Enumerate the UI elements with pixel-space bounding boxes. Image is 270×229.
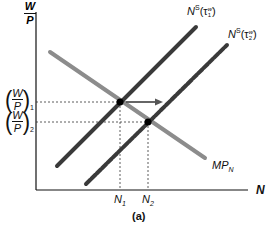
y-label-denominator: P xyxy=(26,14,33,26)
y-label-numerator: W xyxy=(25,0,35,12)
n2-sub: 2 xyxy=(150,200,154,207)
mpn-label: MPN xyxy=(212,159,234,173)
y-tick-wp2: ( WP ) 2 xyxy=(5,110,34,133)
n2-base: N xyxy=(142,193,150,205)
ns2-base: N xyxy=(228,28,236,40)
wp1-num: W xyxy=(12,87,22,99)
ns1-close: ) xyxy=(212,5,216,17)
labor-market-diagram: W P N ( WP ) 1 ( WP ) 2 N1 N2 (a) NS(τw1… xyxy=(0,0,270,229)
labor-supply-1-label: NS(τw1) xyxy=(187,4,216,18)
ns1-arg: (τ xyxy=(200,5,208,17)
ns2-close: ) xyxy=(253,28,257,40)
n1-base: N xyxy=(114,193,122,205)
wp2-num: W xyxy=(12,109,22,121)
ns2-arg: (τ xyxy=(241,28,249,40)
wp2-sub: 2 xyxy=(30,126,34,133)
labor-supply-2-label: NS(τw2) xyxy=(228,27,257,41)
x-axis-label: N xyxy=(256,183,265,197)
mpn-sub: N xyxy=(229,166,234,173)
figure-caption: (a) xyxy=(132,210,145,222)
n1-sub: 1 xyxy=(122,200,126,207)
mpn-base: MP xyxy=(212,159,229,171)
arrow-head-icon xyxy=(155,99,163,106)
wp2-den: P xyxy=(14,122,21,134)
equilibrium-point-2 xyxy=(145,119,152,126)
x-tick-n2: N2 xyxy=(142,193,154,207)
x-tick-n1: N1 xyxy=(114,193,126,207)
equilibrium-point-1 xyxy=(117,99,124,106)
ns1-base: N xyxy=(187,5,195,17)
y-axis-label: W P xyxy=(24,1,36,26)
